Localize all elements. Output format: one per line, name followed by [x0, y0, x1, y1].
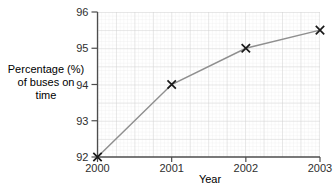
y-tick-label: 93: [76, 115, 88, 127]
x-tick-label: 2001: [159, 162, 183, 174]
y-axis-label: Percentage (%) of buses on time: [0, 63, 92, 102]
y-axis-label-line1: Percentage (%): [0, 63, 92, 76]
bus-punctuality-chart: 9293949596 2000200120022003 Percentage (…: [0, 0, 334, 188]
x-tick-label: 2000: [85, 162, 109, 174]
x-axis-ticks: 2000200120022003: [85, 157, 332, 174]
y-axis-label-line2: of buses on: [0, 76, 92, 89]
y-axis-label-line3: time: [0, 89, 92, 102]
y-tick-label: 95: [76, 42, 88, 54]
x-axis-label: Year: [183, 173, 237, 185]
grid-major: [98, 12, 321, 157]
y-tick-label: 96: [76, 6, 88, 18]
x-tick-label: 2003: [308, 162, 332, 174]
x-tick-label: 2002: [234, 162, 258, 174]
